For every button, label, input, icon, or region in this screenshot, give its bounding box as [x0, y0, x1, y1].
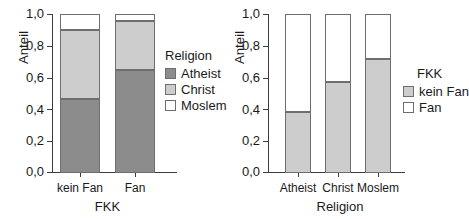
x-axis-label-right: Religion — [300, 199, 380, 214]
legend-title-religion: Religion — [165, 48, 227, 63]
legend-label-kein-fan: kein Fan — [419, 85, 469, 98]
y-tick-label: 0,8 — [18, 41, 44, 51]
x-axis-label-left: FKK — [75, 199, 140, 214]
legend-swatch-atheist — [165, 68, 176, 79]
y-tick-label: 0,4 — [18, 105, 44, 115]
bar-christ[interactable] — [325, 14, 351, 173]
legend-item-atheist[interactable]: Atheist — [165, 66, 227, 81]
x-tick-mark — [338, 173, 339, 177]
x-tick-mark — [378, 173, 379, 177]
bar-segment-christ — [115, 21, 155, 70]
legend-item-christ[interactable]: Christ — [165, 82, 227, 97]
legend-swatch-kein-fan — [403, 86, 414, 97]
legend-label-christ: Christ — [181, 83, 215, 96]
x-tick-mark — [80, 173, 81, 177]
bar-segment-atheist — [60, 99, 100, 173]
legend-left: Religion Atheist Christ Moslem — [165, 48, 227, 114]
bar-segment-moslem — [115, 14, 155, 21]
y-tick-label: 0,4 — [234, 105, 260, 115]
bar-segment-fan — [285, 14, 311, 112]
legend-swatch-fan — [403, 102, 414, 113]
legend-swatch-moslem — [165, 100, 176, 111]
bar-moslem[interactable] — [365, 14, 391, 173]
bar-segment-atheist — [115, 70, 155, 173]
y-tick-label: 0,0 — [18, 167, 44, 177]
legend-item-kein-fan[interactable]: kein Fan — [403, 84, 469, 99]
legend-label-atheist: Atheist — [181, 67, 221, 80]
bar-fan[interactable] — [115, 14, 155, 173]
y-axis-line-left — [52, 14, 53, 173]
x-tick-mark — [135, 173, 136, 177]
legend-swatch-christ — [165, 84, 176, 95]
chart-panel-right: Anteil 1,0 0,8 0,6 0,4 0,2 0,0 — [227, 0, 453, 219]
legend-label-fan: Fan — [419, 101, 441, 114]
y-tick-label: 0,6 — [18, 73, 44, 83]
legend-label-moslem: Moslem — [181, 99, 227, 112]
x-category-label-moslem: Moslem — [353, 181, 403, 195]
legend-item-fan[interactable]: Fan — [403, 100, 469, 115]
legend-item-moslem[interactable]: Moslem — [165, 98, 227, 113]
y-tick-label: 0,8 — [234, 41, 260, 51]
bar-segment-fan — [325, 14, 351, 82]
x-tick-mark — [298, 173, 299, 177]
bar-kein-fan[interactable] — [60, 14, 100, 173]
y-tick-label: 0,6 — [234, 73, 260, 83]
y-tick-label: 0,2 — [18, 136, 44, 146]
x-category-label-kein-fan: kein Fan — [52, 181, 108, 195]
bar-segment-christ — [60, 30, 100, 99]
y-tick-label: 1,0 — [234, 9, 260, 19]
bar-segment-fan — [365, 14, 391, 59]
y-tick-label: 1,0 — [18, 9, 44, 19]
bar-segment-kein-fan — [325, 82, 351, 173]
y-tick-label: 0,2 — [234, 136, 260, 146]
y-axis-line-right — [268, 14, 269, 173]
y-tick-label: 0,0 — [234, 167, 260, 177]
bar-segment-kein-fan — [365, 59, 391, 173]
chart-panel-left: Anteil 1,0 0,8 0,6 0,4 0,2 0,0 — [0, 0, 227, 219]
bar-segment-moslem — [60, 14, 100, 30]
bar-segment-kein-fan — [285, 112, 311, 173]
legend-right: FKK kein Fan Fan — [403, 66, 469, 116]
x-category-label-fan: Fan — [110, 181, 160, 195]
legend-title-fkk: FKK — [403, 66, 469, 81]
bar-atheist[interactable] — [285, 14, 311, 173]
